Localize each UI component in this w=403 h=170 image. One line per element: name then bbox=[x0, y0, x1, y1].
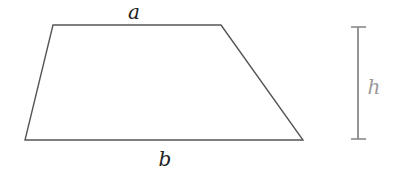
height-label: h bbox=[368, 75, 381, 99]
trapezoid-diagram: a b h bbox=[0, 0, 403, 170]
top-base-label: a bbox=[128, 0, 140, 24]
bottom-base-label: b bbox=[159, 147, 172, 170]
